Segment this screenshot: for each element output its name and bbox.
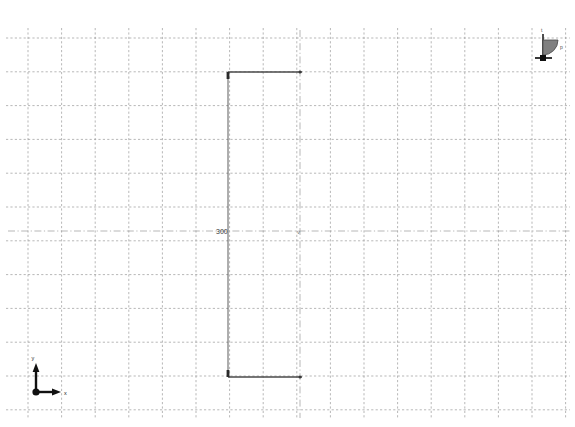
dimension-value-label: 300 [216, 228, 228, 235]
flag-base-square [540, 55, 546, 61]
vertex-point-marker: v [297, 229, 300, 235]
y-axis-label: y [32, 355, 35, 361]
axis-origin-dot [32, 388, 39, 395]
flag-side-label: p [560, 44, 563, 50]
x-axis-label: x [64, 390, 67, 396]
cad-drawing-canvas[interactable]: 300 v y x t p [0, 0, 575, 427]
drawing-surface[interactable]: 300 v y x t p [0, 0, 575, 427]
paper-background [0, 0, 575, 427]
line-endpoint-marker [299, 376, 302, 379]
dimension-arrow-bottom [227, 370, 230, 377]
dimension-arrow-top [227, 72, 230, 79]
line-endpoint-marker [299, 71, 302, 74]
